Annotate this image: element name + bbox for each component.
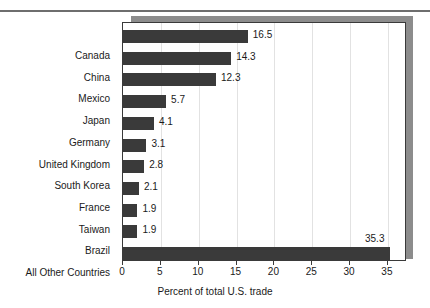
bar-value-south-korea: 2.8 <box>149 158 163 171</box>
bar-south-korea[interactable] <box>123 160 144 173</box>
bar-value-canada: 16.5 <box>253 28 272 41</box>
xaxis-tick-label-10: 10 <box>192 266 203 278</box>
bar-japan[interactable] <box>123 95 166 108</box>
bar-brazil[interactable] <box>123 225 137 238</box>
xaxis-tick <box>198 261 199 265</box>
category-label-taiwan: Taiwan <box>79 223 110 236</box>
xaxis-tick-label-15: 15 <box>230 266 241 278</box>
xaxis-tick-label-20: 20 <box>268 266 279 278</box>
xaxis-tick-label-25: 25 <box>306 266 317 278</box>
plot-frame: 16.5 14.3 12.3 5.7 4.1 3.1 <box>122 22 406 261</box>
xaxis-tick <box>122 261 123 265</box>
bar-taiwan[interactable] <box>123 204 137 217</box>
bar-value-china: 14.3 <box>236 50 255 63</box>
xaxis-tick <box>387 261 388 265</box>
category-label-mexico: Mexico <box>78 92 110 105</box>
bar-value-united-kingdom: 3.1 <box>151 137 165 150</box>
category-label-brazil: Brazil <box>85 244 110 257</box>
category-label-japan: Japan <box>83 114 110 127</box>
xaxis-tick <box>311 261 312 265</box>
bar-china[interactable] <box>123 52 231 65</box>
bar-france[interactable] <box>123 182 139 195</box>
bar-value-all-other-countries: 35.3 <box>365 232 384 245</box>
bar-value-brazil: 1.9 <box>142 223 156 236</box>
xaxis-tick-label-35: 35 <box>381 266 392 278</box>
bar-value-france: 2.1 <box>144 180 158 193</box>
bar-value-germany: 4.1 <box>159 115 173 128</box>
category-label-canada: Canada <box>75 49 110 62</box>
category-axis-labels: Canada China Mexico Japan Germany United… <box>0 22 116 261</box>
gridline-25 <box>312 23 313 260</box>
xaxis-title: Percent of total U.S. trade <box>0 286 430 298</box>
chart-figure: Canada China Mexico Japan Germany United… <box>0 0 430 308</box>
xaxis-tick <box>160 261 161 265</box>
category-label-france: France <box>79 201 110 214</box>
xaxis-tick <box>236 261 237 265</box>
bar-canada[interactable] <box>123 30 248 43</box>
bar-value-taiwan: 1.9 <box>142 202 156 215</box>
xaxis-tick-label-0: 0 <box>119 266 125 278</box>
category-label-all-other-countries: All Other Countries <box>26 266 110 279</box>
figure-top-rule <box>0 10 430 12</box>
bar-united-kingdom[interactable] <box>123 139 146 152</box>
category-label-south-korea: South Korea <box>54 179 110 192</box>
category-label-germany: Germany <box>69 136 110 149</box>
bar-all-other-countries[interactable] <box>123 247 390 260</box>
bar-mexico[interactable] <box>123 73 216 86</box>
xaxis-tick <box>349 261 350 265</box>
gridline-20 <box>274 23 275 260</box>
xaxis-tick-label-5: 5 <box>157 266 163 278</box>
category-label-united-kingdom: United Kingdom <box>39 158 110 171</box>
plot-area: 16.5 14.3 12.3 5.7 4.1 3.1 <box>123 23 405 260</box>
gridline-35 <box>388 23 389 260</box>
gridline-30 <box>350 23 351 260</box>
category-label-china: China <box>84 71 110 84</box>
xaxis-tick <box>273 261 274 265</box>
bar-value-mexico: 12.3 <box>221 71 240 84</box>
bar-value-japan: 5.7 <box>171 93 185 106</box>
bar-germany[interactable] <box>123 117 154 130</box>
xaxis-tick-label-30: 30 <box>343 266 354 278</box>
value-axis: 0 5 10 15 20 25 30 35 <box>122 261 406 281</box>
